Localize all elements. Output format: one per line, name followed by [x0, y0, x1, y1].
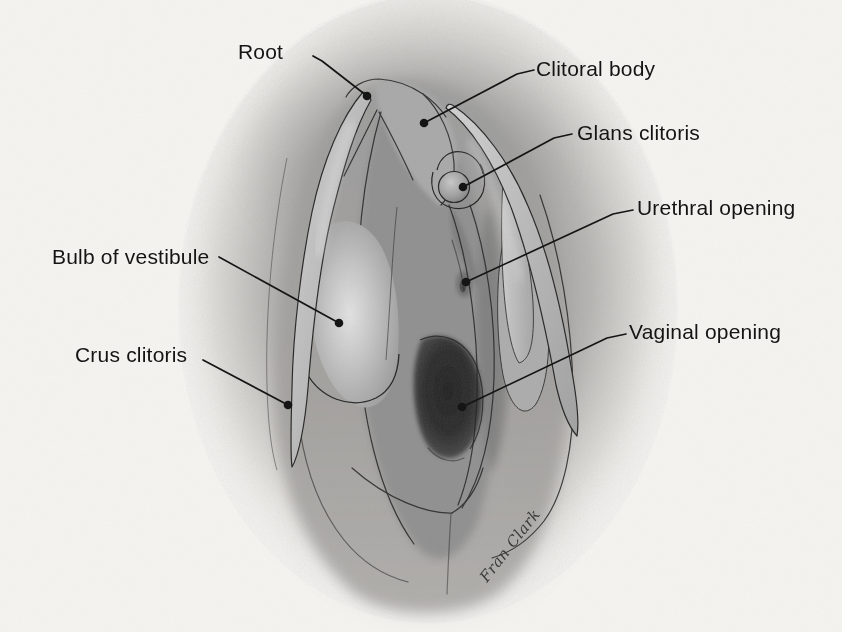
label-root: Root [238, 40, 283, 63]
label-crus-clitoris: Crus clitoris [75, 343, 187, 366]
label-clitoral-body: Clitoral body [536, 57, 655, 80]
label-glans-clitoris: Glans clitoris [577, 121, 700, 144]
textbook-figure-page: Fran Clark Root Clitoral body Glans clit… [0, 0, 842, 632]
label-urethral-opening: Urethral opening [637, 196, 795, 219]
label-bulb-of-vestibule: Bulb of vestibule [52, 245, 210, 268]
figure-clitoris-anatomy: Fran Clark [0, 0, 842, 632]
label-vaginal-opening: Vaginal opening [629, 320, 781, 343]
